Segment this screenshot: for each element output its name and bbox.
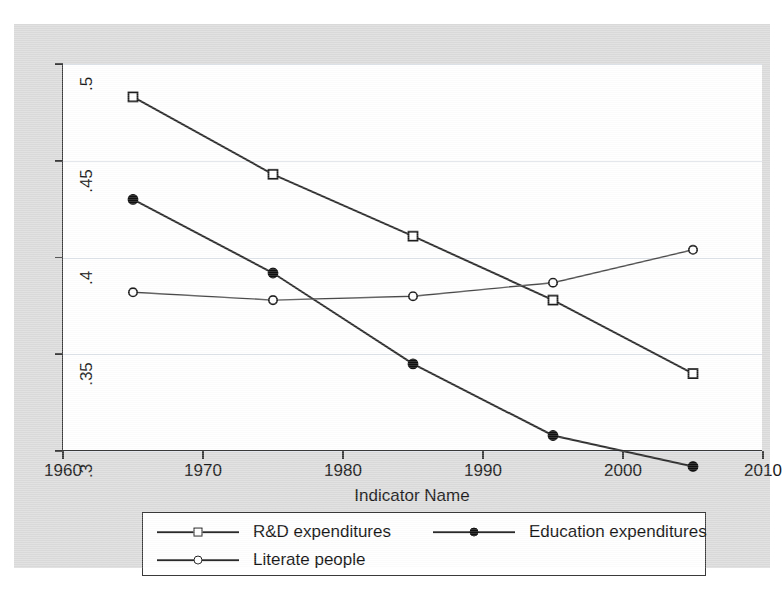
legend-item-education-expenditures[interactable]: Education expenditures: [433, 519, 707, 545]
marker-open-circle: [409, 292, 417, 300]
marker-open-square: [129, 92, 138, 101]
x-axis-tick: [62, 451, 64, 459]
x-axis-tick: [342, 451, 344, 459]
legend-key-filled-circle-icon: [433, 524, 515, 540]
legend-item-literate-people[interactable]: Literate people: [157, 547, 365, 573]
marker-open-square: [549, 296, 558, 305]
x-axis-tick: [762, 451, 764, 459]
series-1: [129, 92, 698, 378]
legend-label: R&D expenditures: [253, 522, 391, 542]
x-axis-tick-label: 1970: [184, 461, 222, 481]
marker-open-circle: [549, 279, 557, 287]
y-axis-tick: [55, 353, 63, 355]
legend-key-open-square-icon: [157, 524, 239, 540]
plot-inner: .5.45.4.35.3: [63, 64, 762, 450]
marker-open-square: [269, 170, 278, 179]
x-axis-tick-label: 1990: [464, 461, 502, 481]
marker-open-circle: [689, 246, 697, 254]
y-axis-tick: [55, 63, 63, 65]
x-axis-tick: [622, 451, 624, 459]
x-axis-title: Indicator Name: [62, 486, 762, 506]
legend-key-open-circle-icon: [157, 552, 239, 568]
y-axis-tick: [55, 160, 63, 162]
plot-area: .5.45.4.35.3 196019701980199020002010: [62, 64, 762, 451]
x-axis-tick: [202, 451, 204, 459]
x-tick-label-group: 196019701980199020002010: [63, 451, 762, 452]
y-axis-tick: [55, 257, 63, 259]
scanned-page-panel: .5.45.4.35.3 196019701980199020002010 In…: [14, 24, 770, 568]
marker-filled-circle: [408, 359, 418, 369]
marker-filled-circle: [548, 431, 558, 441]
chart-legend: R&D expenditures Education expenditures …: [142, 512, 706, 576]
marker-open-circle: [269, 296, 277, 304]
legend-label: Education expenditures: [529, 522, 707, 542]
x-axis-tick-label: 1960: [44, 461, 82, 481]
marker-open-square: [689, 369, 698, 378]
series-layer: [63, 64, 763, 451]
marker-open-circle: [129, 288, 137, 296]
x-axis-tick: [482, 451, 484, 459]
series-3: [129, 246, 697, 305]
marker-filled-circle: [268, 268, 278, 278]
legend-item-rd-expenditures[interactable]: R&D expenditures: [157, 519, 391, 545]
marker-filled-circle: [128, 195, 138, 205]
marker-filled-circle: [688, 462, 698, 472]
marker-open-square: [409, 232, 418, 241]
x-axis-tick-label: 1980: [324, 461, 362, 481]
legend-label: Literate people: [253, 550, 365, 570]
x-axis-tick-label: 2010: [744, 461, 782, 481]
x-axis-tick-label: 2000: [604, 461, 642, 481]
